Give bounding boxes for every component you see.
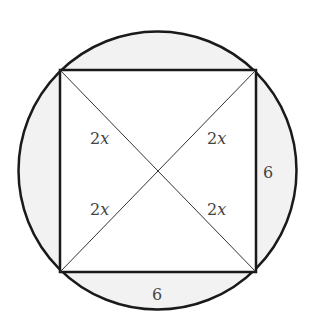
label-diag-bottom-right: 2x [207, 200, 226, 219]
label-side-right: 6 [263, 163, 273, 182]
inscribed-square-diagram: 2x 2x 2x 2x 6 6 [0, 0, 313, 320]
label-diag-bottom-left: 2x [90, 200, 109, 219]
label-diag-top-right: 2x [207, 129, 226, 148]
label-side-bottom: 6 [152, 285, 162, 304]
label-diag-top-left: 2x [90, 129, 109, 148]
